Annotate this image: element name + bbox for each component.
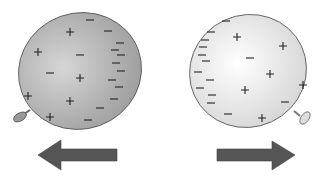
right-balloon [171,0,325,147]
arrow-right-icon [217,141,295,170]
arrow-left-icon [38,140,117,170]
left-balloon [2,0,158,147]
balloon-repulsion-diagram [0,0,325,180]
left-balloon-knot-icon [12,110,30,124]
right-balloon-knot-icon [294,110,312,126]
